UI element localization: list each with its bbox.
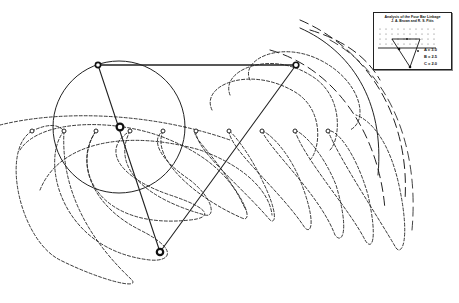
legend-value-b: B = 2.5 [424,54,437,59]
pivot-coupler-bottom [157,249,163,255]
legend-value-c: C = 2.0 [424,61,437,66]
pivots [95,62,298,255]
coupler-curves [0,52,405,284]
legend-box: Analysis of the Four Bar Linkage J. A. B… [373,12,452,70]
trace-points [30,129,330,133]
pivot-crank-top [95,62,100,67]
solid-arc [300,28,379,175]
legend-subtitle: J. A. Brown and R. S. Pitts [374,19,451,23]
pivot-crank-center [117,124,124,131]
linkage-bars [98,65,296,252]
pivot-rocker-top [293,62,299,68]
legend-value-a: A = 3.0 [424,47,437,52]
